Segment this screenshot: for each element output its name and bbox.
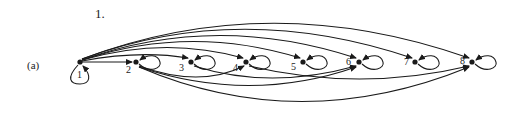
node-label-1: 1 <box>77 69 82 80</box>
node-label-5: 5 <box>291 61 296 72</box>
edge-3-6 <box>194 66 356 78</box>
node-label-7: 7 <box>404 56 409 67</box>
self-loop-7 <box>418 56 439 70</box>
divisibility-digraph: 1. (a) 1 2 3 4 5 6 7 8 <box>0 0 523 115</box>
node-8 <box>469 59 474 64</box>
node-2 <box>133 59 138 64</box>
node-4 <box>243 59 248 64</box>
node-6 <box>356 59 361 64</box>
edge-2-8 <box>139 67 469 102</box>
node-1 <box>77 59 82 64</box>
node-label-6: 6 <box>346 56 351 67</box>
self-loop-4 <box>249 56 270 70</box>
node-3 <box>188 59 193 64</box>
problem-number: 1. <box>95 6 105 21</box>
node-7 <box>412 59 417 64</box>
node-label-8: 8 <box>460 55 465 66</box>
node-label-2: 2 <box>126 64 131 75</box>
self-loop-6 <box>362 56 383 70</box>
node-label-4: 4 <box>233 62 238 73</box>
self-loop-8 <box>475 56 496 70</box>
node-label-3: 3 <box>179 62 184 73</box>
edge-2-6 <box>139 67 356 86</box>
part-label: (a) <box>27 59 40 72</box>
node-5 <box>300 59 305 64</box>
self-loop-5 <box>306 56 327 70</box>
edge-1-4 <box>82 47 243 60</box>
